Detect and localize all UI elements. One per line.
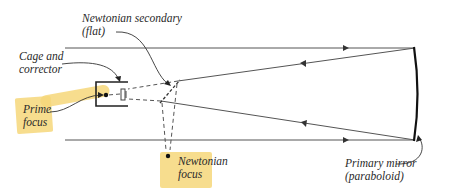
secondary-leader [116,32,168,84]
label-cage: Cage and corrector [19,50,63,76]
arrow-icon [98,92,104,98]
arrow-icon [343,45,349,51]
corrector [121,89,126,100]
cage-leader [62,63,118,78]
primary-mirror [414,47,418,141]
reflected-rays [161,48,415,140]
label-prime-focus: Prime focus [23,103,51,129]
arrow-icon [300,60,306,67]
arrow-icon [343,137,349,143]
newtonian-focus-point [166,154,170,158]
prime-focus-point [104,93,108,97]
label-newtonian-focus: Newtonian focus [178,155,228,181]
label-primary-mirror: Primary mirror (paraboloid) [345,157,416,183]
arrow-icon [301,120,307,127]
arrow-icon [115,76,121,82]
prime-leader [50,95,102,112]
label-secondary: Newtonian secondary (flat) [82,12,182,38]
